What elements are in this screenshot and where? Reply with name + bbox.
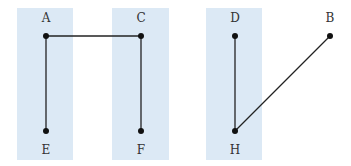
node-h xyxy=(232,128,238,134)
labels-layer: ACDBEFH xyxy=(41,11,335,157)
node-b xyxy=(327,33,333,39)
node-label-c: C xyxy=(136,11,145,25)
node-label-d: D xyxy=(230,11,240,25)
graph-diagram: ACDBEFH xyxy=(0,0,351,166)
columns-layer xyxy=(17,8,262,160)
column-band-ae xyxy=(17,8,73,160)
node-a xyxy=(43,33,49,39)
node-label-a: A xyxy=(41,11,51,25)
node-c xyxy=(138,33,144,39)
nodes-layer xyxy=(43,33,333,134)
node-label-f: F xyxy=(137,143,145,157)
column-band-dh xyxy=(206,8,262,160)
node-d xyxy=(232,33,238,39)
node-label-b: B xyxy=(326,11,335,25)
edges-layer xyxy=(46,36,330,131)
node-e xyxy=(43,128,49,134)
node-f xyxy=(138,128,144,134)
node-label-e: E xyxy=(42,143,51,157)
node-label-h: H xyxy=(230,143,240,157)
